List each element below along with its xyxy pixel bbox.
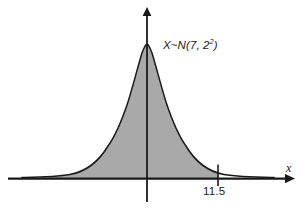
x-axis-arrow-icon	[285, 174, 295, 183]
tick-label-11-5: 11.5	[203, 186, 225, 198]
distribution-notation-label: X~N(7, 22)	[163, 38, 218, 51]
shaded-area-under-curve	[40, 44, 244, 178]
distribution-notation-main: X~N(7, 2	[163, 39, 210, 51]
y-axis-arrow-icon	[143, 7, 152, 16]
normal-distribution-figure: X~N(7, 22) x 11.5	[0, 0, 303, 217]
distribution-chart-svg	[0, 0, 303, 217]
distribution-notation-close: )	[214, 39, 218, 51]
x-axis-title: x	[286, 162, 291, 174]
